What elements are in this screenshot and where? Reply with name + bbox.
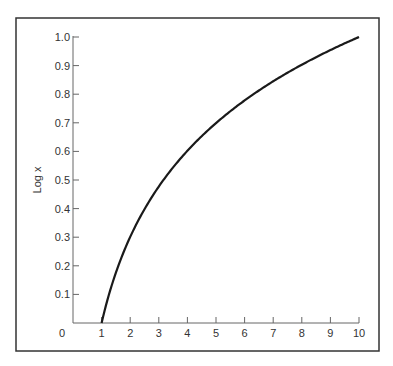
y-tick-label: 0.9 [55,60,70,72]
y-tick-label: 0.6 [55,145,70,157]
x-ticks: 012345678910 [59,317,365,339]
chart-canvas: 0.10.20.30.40.50.60.70.80.91.0 012345678… [0,0,393,366]
x-tick-label: 7 [270,327,276,339]
y-tick-label: 0.3 [55,231,70,243]
x-tick-label: 1 [99,327,105,339]
x-tick-label: 3 [156,327,162,339]
y-axis-label: Log x [31,166,43,193]
y-ticks: 0.10.20.30.40.50.60.70.80.91.0 [55,31,79,300]
x-tick-label: 8 [299,327,305,339]
x-tick-label: 5 [213,327,219,339]
y-tick-label: 1.0 [55,31,70,43]
chart-frame [16,18,379,351]
log-curve [102,37,359,323]
x-tick-label: 2 [127,327,133,339]
y-tick-label: 0.5 [55,174,70,186]
x-tick-label: 6 [242,327,248,339]
x-tick-label: 10 [353,327,365,339]
x-tick-label: 0 [59,327,65,339]
y-tick-label: 0.2 [55,260,70,272]
y-tick-label: 0.1 [55,288,70,300]
y-tick-label: 0.8 [55,88,70,100]
y-tick-label: 0.4 [55,203,70,215]
x-tick-label: 9 [327,327,333,339]
y-tick-label: 0.7 [55,117,70,129]
x-tick-label: 4 [184,327,190,339]
